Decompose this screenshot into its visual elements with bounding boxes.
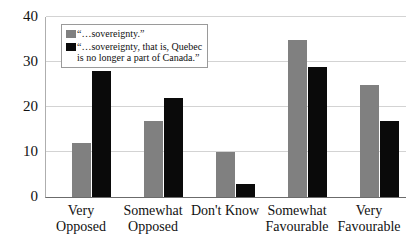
legend-swatch-series-a — [66, 30, 76, 38]
legend: “…sovereignty.” “…sovereignty, that is, … — [61, 24, 208, 68]
y-axis: 40 30 20 10 0 — [0, 0, 40, 250]
y-tick-label-10: 10 — [0, 144, 38, 159]
bar-dont-know-series-a — [216, 152, 235, 197]
bar-very-opposed-series-a — [72, 143, 91, 197]
x-tick-label-very-opposed: Very Opposed — [41, 203, 121, 235]
y-tick-label-30: 30 — [0, 54, 38, 69]
legend-entry-series-b: “…sovereignty, that is, Quebec is no lon… — [66, 41, 202, 63]
legend-entry-series-a: “…sovereignty.” — [66, 28, 202, 39]
bar-somewhat-favourable-series-b — [308, 67, 327, 198]
bar-very-favourable-series-a — [360, 85, 379, 198]
bar-dont-know-series-b — [236, 184, 255, 198]
bar-very-favourable-series-b — [380, 121, 399, 198]
y-tick-label-20: 20 — [0, 99, 38, 114]
x-tick-label-somewhat-opposed: Somewhat Opposed — [113, 203, 193, 235]
bar-somewhat-opposed-series-a — [144, 121, 163, 198]
x-tick-label-dont-know: Don't Know — [185, 203, 265, 219]
x-tick-label-somewhat-favourable: Somewhat Favourable — [257, 203, 337, 235]
y-tick-label-0: 0 — [0, 189, 38, 204]
legend-label-series-b: “…sovereignty, that is, Quebec is no lon… — [77, 41, 202, 63]
legend-label-series-a: “…sovereignty.” — [77, 28, 144, 39]
x-tick-label-very-favourable: Very Favourable — [329, 203, 409, 235]
y-tick-label-40: 40 — [0, 9, 38, 24]
bar-very-opposed-series-b — [92, 71, 111, 197]
bar-chart: 40 30 20 10 0 Very O — [0, 0, 416, 250]
bar-somewhat-favourable-series-a — [288, 40, 307, 198]
gridline-40 — [46, 16, 406, 17]
bar-somewhat-opposed-series-b — [164, 98, 183, 197]
legend-swatch-series-b — [66, 43, 76, 51]
